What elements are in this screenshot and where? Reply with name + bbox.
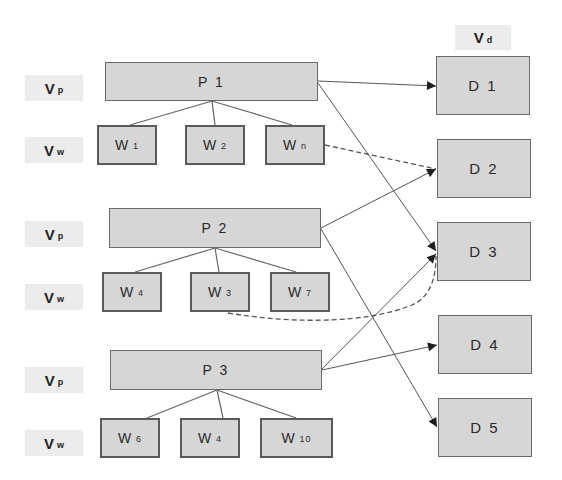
edge-p3-d4 <box>322 345 437 370</box>
tree-lines-p1 <box>130 101 292 125</box>
process-p1: P 1 <box>105 62 318 101</box>
edge-p2-d2 <box>321 169 436 228</box>
worker-w4-b: W4 <box>180 418 240 458</box>
label-vw-row1: Vw <box>25 137 83 163</box>
destination-d1: D 1 <box>436 56 530 115</box>
label-vd: Vd <box>455 25 511 50</box>
edge-p2-d5 <box>321 229 437 427</box>
edge-p3-d3 <box>322 254 436 369</box>
tree-lines-p3 <box>147 390 296 418</box>
label-vp-row3: Vp <box>25 367 83 393</box>
worker-w1: W1 <box>97 125 157 165</box>
worker-wn: Wn <box>265 125 325 165</box>
destination-d4: D 4 <box>438 315 532 374</box>
edge-p1-d3 <box>318 83 436 251</box>
label-vw-row2: Vw <box>25 284 83 310</box>
worker-w10: W10 <box>260 418 333 458</box>
edge-wn-d2-dashed <box>325 145 436 169</box>
label-vp-row2: Vp <box>25 221 83 247</box>
edge-p1-d1 <box>318 81 436 86</box>
edge-w3-d3-dashed <box>228 256 436 320</box>
worker-w4: W4 <box>102 272 162 312</box>
worker-w2: W2 <box>185 125 245 165</box>
tree-lines-p2 <box>135 248 296 272</box>
destination-d3: D 3 <box>437 222 531 281</box>
worker-w6: W6 <box>100 418 160 458</box>
label-vw-row3: Vw <box>25 430 83 456</box>
process-p3: P 3 <box>110 350 322 390</box>
process-p2: P 2 <box>109 208 321 248</box>
label-vp-row1: Vp <box>25 75 83 101</box>
worker-w3: W3 <box>190 272 250 312</box>
worker-w7: W7 <box>270 272 330 312</box>
destination-d5: D 5 <box>438 398 532 457</box>
destination-d2: D 2 <box>437 139 531 198</box>
